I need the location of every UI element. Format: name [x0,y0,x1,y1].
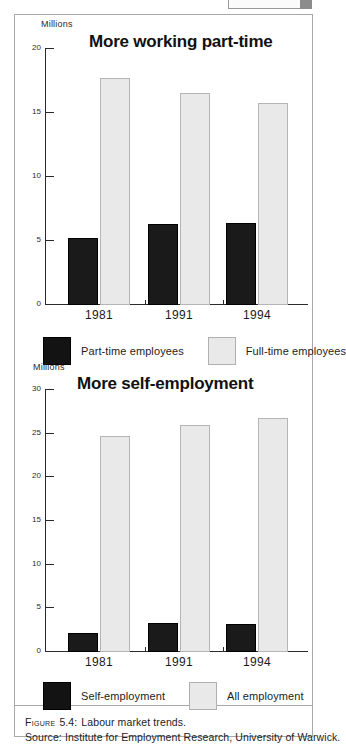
x-axis-tick [145,300,146,305]
chart-2-ytick-10: 10 [45,564,54,565]
chart-1-ytick-label: 20 [32,43,41,52]
legend-label-part-time: Part-time employees [81,345,184,357]
chart-2-bar-groups: 198119911994 [46,390,300,652]
x-axis-tick [223,300,224,305]
chart-2-ytick-25: 25 [45,433,54,434]
x-axis-label: 1994 [226,655,288,669]
chart-1-ytick-0: 0 [45,304,54,305]
chart-2-ytick-20: 20 [45,476,54,477]
bar-group: 1994 [226,49,288,305]
bar [180,93,210,305]
chart-2-ytick-label: 15 [32,515,41,524]
chart-2-ytick-label: 10 [32,559,41,568]
legend-label-full-time: Full-time employees [246,345,346,357]
x-axis-tick [223,647,224,652]
chart-1-ytick-label: 0 [37,299,41,308]
x-axis-label: 1994 [226,308,288,322]
legend-label-all-employment: All employment [227,690,304,702]
chart-more-working-part-time: Millions More working part-time 19811991… [15,15,312,315]
chart-1-ytick-label: 5 [37,235,41,244]
bar-group: 1994 [226,390,288,652]
bar [258,418,288,652]
chart-1-ytick-label: 10 [32,171,41,180]
chart-2-ytick-30: 30 [45,389,54,390]
chart-2-plot-area: 198119911994 051015202530 [45,390,300,652]
caption-source-line: Source: Institute for Employment Researc… [25,730,302,745]
bar [100,436,130,652]
bar [226,223,256,305]
chart-2-ytick-label: 20 [32,471,41,480]
chart-2-ytick-label: 30 [32,384,41,393]
bar-group: 1991 [148,390,210,652]
chart-2-ytick-15: 15 [45,520,54,521]
chart-1-ytick-5: 5 [45,240,54,241]
bar [68,238,98,305]
chart-1-bar-groups: 198119911994 [46,49,300,305]
chart-1-ytick-20: 20 [45,48,54,49]
bar [68,633,98,652]
caption-figure-word: Figure [25,716,55,728]
bar-group: 1991 [148,49,210,305]
chart-1-plot-area: 198119911994 05101520 [45,49,300,305]
x-axis-label: 1991 [148,655,210,669]
chart-2-ytick-label: 0 [37,646,41,655]
bar [226,624,256,652]
bar [180,425,210,652]
chart-1-ytick-15: 15 [45,112,54,113]
chart-2-ytick-label: 25 [32,428,41,437]
charts-panel: Millions More working part-time 19811991… [15,15,312,706]
chart-1-ytick-10: 10 [45,176,54,177]
caption-text: Labour market trends. [81,716,186,728]
legend-label-self-employment: Self-employment [81,690,165,702]
chart-2-ytick-0: 0 [45,651,54,652]
figure-caption: Figure5.4:Labour market trends. Source: … [15,706,312,736]
x-axis-label: 1981 [68,308,130,322]
bar-group: 1981 [68,49,130,305]
figure-container: Millions More working part-time 19811991… [14,14,313,737]
chart-2-unit-label: Millions [33,362,65,372]
x-axis-label: 1991 [148,308,210,322]
caption-title-line: Figure5.4:Labour market trends. [25,715,302,730]
bar [100,78,130,305]
scan-artifact [228,0,312,9]
x-axis-label: 1981 [68,655,130,669]
caption-number: 5.4: [59,716,77,728]
chart-2-ytick-5: 5 [45,607,54,608]
chart-1-unit-label: Millions [41,19,73,29]
bar [148,224,178,305]
bar [258,103,288,305]
chart-1-ytick-label: 15 [32,107,41,116]
x-axis-tick [145,647,146,652]
chart-2-ytick-label: 5 [37,602,41,611]
chart-more-self-employment: Millions More self-employment 1981199119… [15,360,312,660]
bar-group: 1981 [68,390,130,652]
bar [148,623,178,652]
